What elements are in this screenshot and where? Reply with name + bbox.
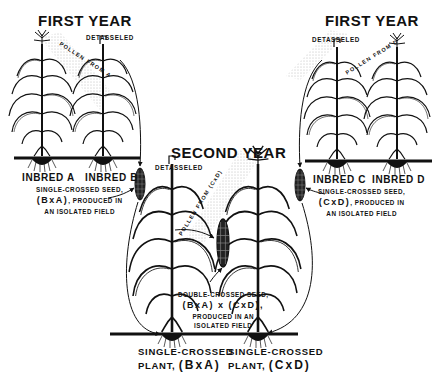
seed-note-bxa-line2: , PRODUCED IN [68, 197, 122, 204]
detasseled-label-c: DETASSELED [312, 37, 360, 43]
double-seed-cross: (BxA) x (CxD), [178, 299, 268, 312]
first-year-right-title: FIRST YEAR [325, 13, 419, 28]
seed-note-cxd-line1: SINGLE-CROSSED SEED, [318, 187, 405, 196]
plant-bxa-line1: SINGLE-CROSSED [138, 346, 233, 358]
inbred-b-label: INBRED B [85, 173, 138, 183]
seed-note-bxa-cross: (BxA) [37, 195, 69, 205]
seed-note-cxd-cross: (CxD) [319, 197, 351, 207]
first-year-left-title: FIRST YEAR [38, 13, 132, 28]
seed-note-cxd-line3: AN ISOLATED FIELD [318, 209, 405, 218]
detasseled-label-bxa: DETASSELED [155, 165, 203, 171]
double-seed-line2: PRODUCED IN AN [178, 312, 268, 321]
plant-cxd-line2: PLANT, [228, 360, 265, 371]
inbred-d-label: INBRED D [372, 175, 425, 185]
seed-note-cxd-line2: , PRODUCED IN [350, 199, 404, 206]
ear-cxd [295, 169, 305, 201]
detasseled-label-b: DETASSELED [86, 35, 134, 41]
plant-bxa-cross: (BxA) [179, 358, 221, 372]
second-year-title: SECOND YEAR [171, 145, 286, 160]
arrow-ear-cxd-to-plant [268, 203, 312, 333]
single-crossed-plant-cxd-label: SINGLE-CROSSED PLANT, (CxD) [228, 346, 323, 374]
plant-cxd-line1: SINGLE-CROSSED [228, 346, 323, 358]
arrow-ear-bxa-to-plant [126, 202, 160, 334]
inbred-a-label: INBRED A [22, 173, 75, 183]
arrow-b-to-ear [120, 60, 141, 166]
seed-note-bxa-line3: AN ISOLATED FIELD [36, 207, 123, 216]
seed-note-bxa: SINGLE-CROSSED SEED, (BxA), PRODUCED IN … [36, 185, 123, 216]
double-seed-line3: ISOLATED FIELD [178, 321, 268, 330]
seed-note-cxd: SINGLE-CROSSED SEED, (CxD), PRODUCED IN … [318, 187, 405, 218]
plant-bxa-line2: PLANT, [138, 360, 175, 371]
ear-double-cross [217, 219, 229, 267]
double-crossed-seed-note: DOUBLE-CROSSED SEED, (BxA) x (CxD), PROD… [178, 290, 268, 330]
plant-cxd-cross: (CxD) [269, 358, 311, 372]
inbred-c-label: INBRED C [313, 175, 366, 185]
single-crossed-plant-bxa-label: SINGLE-CROSSED PLANT, (BxA) [138, 346, 233, 374]
double-seed-line1: DOUBLE-CROSSED SEED, [178, 290, 268, 299]
seed-note-bxa-line1: SINGLE-CROSSED SEED, [36, 185, 123, 194]
